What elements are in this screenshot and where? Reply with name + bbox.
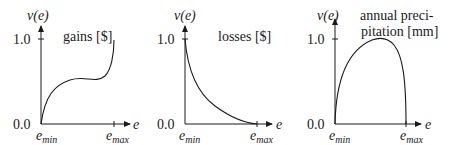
panel-title-line-2: pitation [mm] xyxy=(361,24,438,39)
x-max-label: emax xyxy=(250,128,273,145)
x-min-label: emin xyxy=(36,128,57,145)
y-tick-label-1: 1.0 xyxy=(13,32,31,47)
x-axis-label: e xyxy=(425,117,431,132)
x-axis-label: e xyxy=(276,117,282,132)
x-min-label: emin xyxy=(329,128,350,145)
panel-title: gains [$] xyxy=(63,29,112,44)
x-axis-label: e xyxy=(133,117,139,132)
y-tick-label-1: 1.0 xyxy=(157,32,175,47)
y-tick-label-0: 0.0 xyxy=(307,117,325,132)
y-axis-label: v(e) xyxy=(27,8,49,24)
precipitation-curve xyxy=(335,38,406,124)
value-functions-figure: v(e) 1.0 0.0 e emin emax gains [$] v(e) … xyxy=(0,0,451,145)
panel-gains: v(e) 1.0 0.0 e emin emax gains [$] xyxy=(13,8,139,145)
panel-title-line-1: annual preci- xyxy=(360,8,434,23)
panel-losses: v(e) 1.0 0.0 e emin emax losses [$] xyxy=(157,8,282,145)
y-tick-label-0: 0.0 xyxy=(157,117,175,132)
x-max-label: emax xyxy=(106,128,129,145)
x-max-label: emax xyxy=(400,128,423,145)
panel-precipitation: v(e) 1.0 0.0 e emin emax annual preci- p… xyxy=(307,8,438,145)
losses-curve xyxy=(185,39,257,124)
panel-title: losses [$] xyxy=(218,29,271,44)
gains-curve xyxy=(41,40,114,124)
y-axis-label: v(e) xyxy=(317,8,339,24)
y-tick-label-1: 1.0 xyxy=(307,32,325,47)
y-tick-label-0: 0.0 xyxy=(13,117,31,132)
x-min-label: emin xyxy=(179,128,200,145)
y-axis-label: v(e) xyxy=(174,8,196,24)
